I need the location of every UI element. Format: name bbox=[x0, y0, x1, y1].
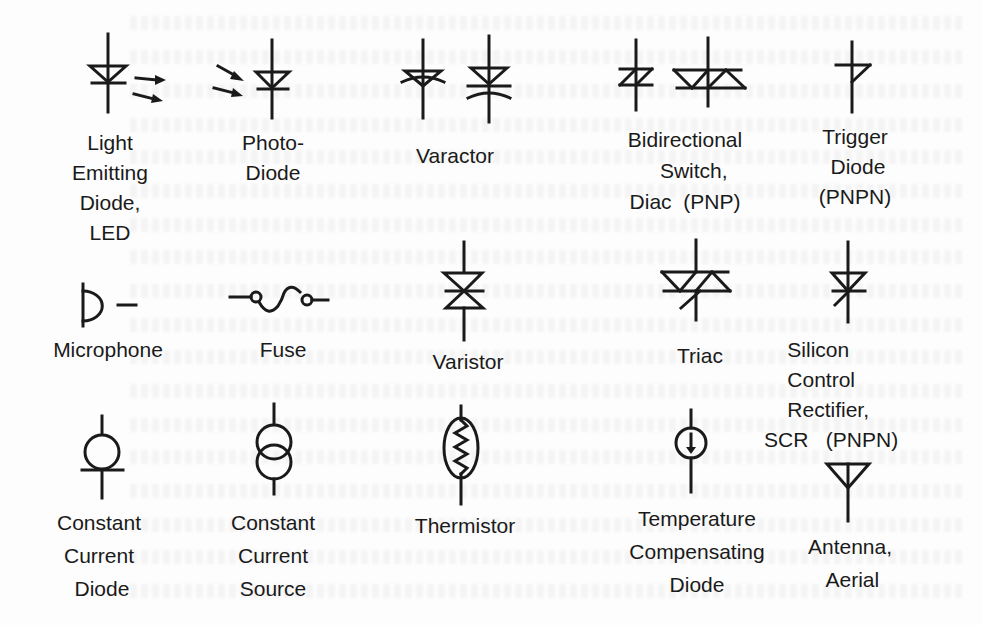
label-antenna: Antenna, Aerial bbox=[795, 530, 905, 596]
